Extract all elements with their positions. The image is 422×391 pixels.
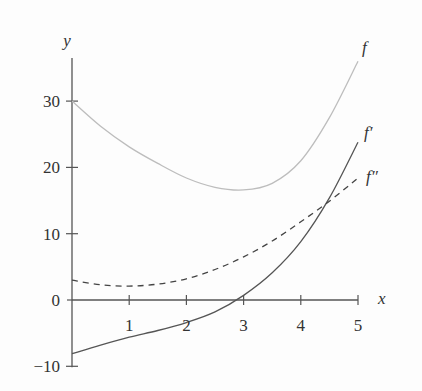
x-tick-label: 5 <box>354 316 363 335</box>
axes <box>66 58 358 367</box>
chart: 12345−100102030yxff′f″ <box>0 0 422 391</box>
y-tick-label: 20 <box>43 158 60 177</box>
x-tick-label: 4 <box>297 316 306 335</box>
y-tick-label: −10 <box>33 357 60 376</box>
curve-label-fp: f′ <box>364 123 373 142</box>
curve-label-fpp: f″ <box>366 167 379 186</box>
x-axis-label: x <box>377 289 386 308</box>
x-tick-label: 3 <box>239 316 248 335</box>
curve-f <box>72 61 358 190</box>
curve-label-f: f <box>362 38 369 57</box>
y-tick-label: 0 <box>52 291 61 310</box>
curve-fp <box>72 142 358 353</box>
y-axis-label: y <box>61 31 71 50</box>
curves <box>72 61 358 353</box>
x-tick-label: 2 <box>182 316 191 335</box>
labels: 12345−100102030yxff′f″ <box>33 31 386 376</box>
y-tick-label: 30 <box>43 92 60 111</box>
x-tick-label: 1 <box>125 316 134 335</box>
curve-fpp <box>72 178 358 286</box>
y-tick-label: 10 <box>43 225 60 244</box>
